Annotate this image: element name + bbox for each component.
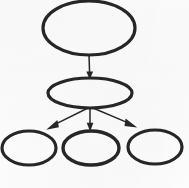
node-root[interactable] [43,1,135,55]
node-leaf-right[interactable] [128,130,182,164]
edge-intermediate-leaf-center [87,108,94,131]
edge-root-intermediate-line [89,55,90,73]
node-intermediate-shape[interactable] [48,78,132,108]
edge-intermediate-leaf-right-line [93,108,128,123]
edge-intermediate-leaf-left-line [56,108,89,124]
node-leaf-center[interactable] [63,131,119,165]
node-leaf-right-shape[interactable] [128,130,182,164]
hierarchy-diagram [0,0,189,188]
node-root-shape[interactable] [43,1,135,55]
node-leaf-left-shape[interactable] [2,131,56,165]
edge-layer [46,55,137,131]
node-leaf-left[interactable] [2,131,56,165]
node-intermediate[interactable] [48,78,132,108]
edge-root-intermediate [86,55,93,80]
edge-intermediate-leaf-left [46,108,88,130]
edge-intermediate-leaf-right [93,108,137,128]
edge-intermediate-leaf-left-arrowhead [46,120,59,130]
node-layer [2,1,182,165]
edge-intermediate-leaf-right-arrowhead [125,119,138,128]
diagram-canvas [0,0,189,188]
node-leaf-center-shape[interactable] [63,131,119,165]
